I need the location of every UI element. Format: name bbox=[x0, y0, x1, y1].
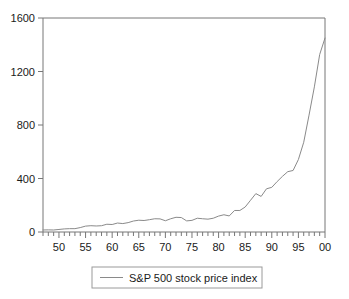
x-tick-label: 95 bbox=[292, 241, 304, 253]
x-tick-label: 70 bbox=[159, 241, 171, 253]
x-tick-label: 80 bbox=[212, 241, 224, 253]
x-tick-label: 85 bbox=[239, 241, 251, 253]
x-axis: 5055606570758085909500 bbox=[43, 232, 331, 253]
legend-label-sp500: S&P 500 stock price index bbox=[129, 272, 258, 284]
x-tick-label: 60 bbox=[106, 241, 118, 253]
x-tick-label: 50 bbox=[53, 241, 65, 253]
plot-frame bbox=[43, 18, 325, 232]
chart-figure: 040080012001600 5055606570758085909500 S… bbox=[0, 0, 349, 299]
y-tick-label: 400 bbox=[17, 173, 35, 185]
x-tick-label: 75 bbox=[186, 241, 198, 253]
y-axis: 040080012001600 bbox=[11, 12, 43, 238]
data-series-group bbox=[43, 38, 325, 230]
x-tick-label: 65 bbox=[133, 241, 145, 253]
y-tick-label: 0 bbox=[29, 226, 35, 238]
y-tick-label: 800 bbox=[17, 119, 35, 131]
x-tick-label: 90 bbox=[266, 241, 278, 253]
series-line-sp500 bbox=[43, 38, 325, 230]
line-chart: 040080012001600 5055606570758085909500 S… bbox=[0, 0, 349, 299]
x-tick-label: 55 bbox=[79, 241, 91, 253]
y-tick-label: 1600 bbox=[11, 12, 35, 24]
y-tick-label: 1200 bbox=[11, 66, 35, 78]
chart-legend: S&P 500 stock price index bbox=[92, 267, 262, 288]
x-tick-label: 00 bbox=[319, 241, 331, 253]
